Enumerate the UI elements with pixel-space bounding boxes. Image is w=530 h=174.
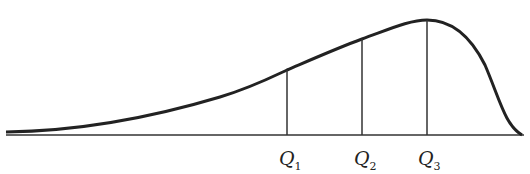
q1-label: Q1: [279, 147, 302, 173]
distribution-curve: [6, 20, 522, 135]
q2-label: Q2: [354, 147, 377, 173]
distribution-diagram: [0, 0, 530, 174]
q3-label: Q3: [418, 147, 441, 173]
